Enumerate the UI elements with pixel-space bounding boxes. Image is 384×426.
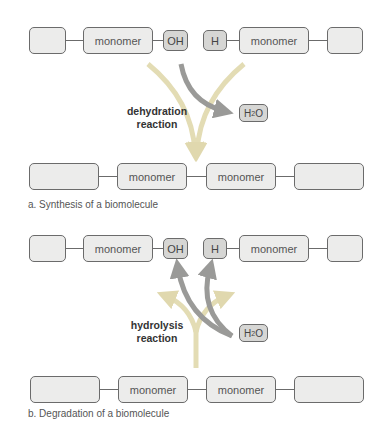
empty-unit-box: [29, 163, 99, 190]
bond-line: [309, 40, 327, 41]
bond-line: [276, 389, 294, 390]
bond-line: [227, 248, 239, 249]
empty-unit-box: [294, 376, 364, 403]
caption-b: b. Degradation of a biomolecule: [28, 408, 169, 419]
hydrolysis-label: hydrolysisreaction: [122, 319, 192, 345]
monomer-box: monomer: [206, 376, 276, 403]
monomer-box: monomer: [117, 163, 187, 190]
water-box: H2O: [239, 324, 268, 342]
hydrogen-box: H: [203, 238, 227, 259]
bond-line: [66, 248, 83, 249]
hydroxyl-box: OH: [163, 30, 188, 51]
bond-line: [153, 40, 163, 41]
empty-unit-box: [30, 376, 100, 403]
caption-a: a. Synthesis of a biomolecule: [28, 199, 158, 210]
bond-line: [100, 389, 118, 390]
water-out-arrow: [181, 64, 224, 111]
bond-line: [66, 40, 83, 41]
monomer-box: monomer: [206, 163, 276, 190]
bond-line: [276, 176, 294, 177]
empty-unit-box: [327, 235, 363, 262]
hydrogen-box: H: [203, 30, 227, 51]
monomer-box: monomer: [239, 27, 309, 54]
biomolecule-diagram: monomer OH H monomer dehydrationreaction…: [0, 0, 384, 426]
bond-line: [188, 389, 206, 390]
dehydration-label: dehydrationreaction: [122, 105, 192, 131]
bond-line: [187, 176, 206, 177]
monomer-box: monomer: [118, 376, 188, 403]
empty-unit-box: [29, 27, 66, 54]
monomer-box: monomer: [239, 235, 309, 262]
empty-unit-box: [327, 27, 363, 54]
empty-unit-box: [294, 163, 364, 190]
monomer-box: monomer: [83, 235, 153, 262]
arrows-layer: [0, 0, 384, 426]
monomer-box: monomer: [83, 27, 153, 54]
bond-line: [153, 248, 163, 249]
water-box: H2O: [239, 104, 268, 122]
empty-unit-box: [29, 235, 66, 262]
bond-line: [99, 176, 117, 177]
bond-line: [309, 248, 327, 249]
hydroxyl-box: OH: [163, 238, 188, 259]
bond-line: [227, 40, 239, 41]
